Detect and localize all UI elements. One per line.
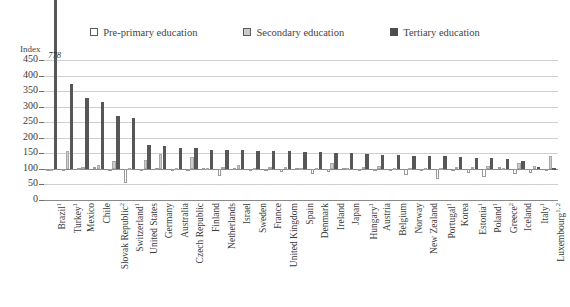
x-axis-label: Greece2 xyxy=(507,203,519,233)
bar xyxy=(521,161,524,169)
bar xyxy=(206,168,209,170)
bar xyxy=(404,169,407,175)
x-axis-label: Iceland xyxy=(523,203,533,231)
bar xyxy=(412,156,415,169)
bar xyxy=(311,169,314,174)
bar xyxy=(377,166,380,168)
bar xyxy=(46,169,49,171)
bar-group xyxy=(342,60,353,200)
bar xyxy=(237,165,240,169)
y-axis-tick-mark-0 xyxy=(39,200,44,201)
x-axis-label: Chile xyxy=(102,203,112,224)
x-axis-label: Netherlands xyxy=(227,203,237,249)
bar-group xyxy=(233,60,244,200)
x-axis-label: Finland xyxy=(211,203,221,232)
bar xyxy=(506,159,509,169)
bar xyxy=(288,151,291,168)
x-axis-label: Luxembourg1, 2 xyxy=(554,203,566,262)
bar-group xyxy=(93,60,104,200)
bar xyxy=(389,169,392,171)
x-axis-label: Mexico xyxy=(86,203,96,232)
x-axis-label: United Kingdom xyxy=(289,203,299,267)
bar xyxy=(50,169,53,171)
bar-series-container: 778 xyxy=(44,60,558,200)
bar xyxy=(264,169,267,171)
bar-group xyxy=(62,60,73,200)
bar-group xyxy=(295,60,306,200)
bar xyxy=(397,155,400,169)
bar-group xyxy=(311,60,322,200)
bar xyxy=(552,168,555,170)
x-axis-label: Poland1 xyxy=(491,203,503,233)
x-axis-label: Spain xyxy=(305,203,315,225)
bar xyxy=(284,167,287,169)
legend-label-pre-primary: Pre-primary education xyxy=(103,27,197,38)
bar xyxy=(77,168,80,170)
bar xyxy=(272,151,275,169)
bar xyxy=(471,167,474,169)
bar xyxy=(253,168,256,170)
x-axis-label: Estonia1 xyxy=(476,203,488,235)
bar xyxy=(132,118,135,169)
bar-group xyxy=(280,60,291,200)
bar-group xyxy=(108,60,119,200)
bar xyxy=(327,169,330,172)
bar-group xyxy=(46,60,57,200)
y-axis-tick-400: 400 xyxy=(0,69,38,80)
bar-group xyxy=(389,60,400,200)
bar xyxy=(451,169,454,171)
bar xyxy=(315,168,318,170)
x-axis-label: Austria xyxy=(382,203,392,231)
y-axis-tick-250: 250 xyxy=(0,115,38,126)
x-axis-label: Ireland xyxy=(336,203,346,230)
bar xyxy=(330,163,333,169)
bar xyxy=(108,169,111,171)
x-axis-label: Germany xyxy=(164,203,174,238)
bar-group xyxy=(404,60,415,200)
y-axis-tick-0: 0 xyxy=(0,193,38,204)
bar xyxy=(459,157,462,169)
x-axis-label: Turkey1 xyxy=(71,203,83,233)
legend-item-pre-primary: Pre-primary education xyxy=(90,27,197,38)
bar xyxy=(268,167,271,169)
bar xyxy=(194,148,197,169)
bar xyxy=(408,168,411,170)
bar-group xyxy=(420,60,431,200)
bar xyxy=(171,169,174,171)
x-axis-label: Switzerland1 xyxy=(133,203,145,252)
bar xyxy=(112,161,115,169)
x-axis-label: New Zealand xyxy=(429,203,439,254)
bar xyxy=(101,102,104,169)
bar xyxy=(443,156,446,168)
bar xyxy=(517,163,520,169)
y-axis-tick-200: 200 xyxy=(0,131,38,142)
legend-label-tertiary: Tertiary education xyxy=(403,27,480,38)
x-axis-label: Belgium xyxy=(398,203,408,236)
bar xyxy=(179,148,182,169)
bar xyxy=(225,150,228,169)
bar xyxy=(350,153,353,169)
bar-group xyxy=(202,60,213,200)
bar-group xyxy=(482,60,493,200)
legend-swatch-pre-primary xyxy=(90,28,98,36)
bar xyxy=(249,169,252,171)
bar xyxy=(436,169,439,179)
bar xyxy=(365,154,368,169)
x-axis-label: Slovak Republic2 xyxy=(118,203,130,269)
bar xyxy=(319,152,322,168)
y-axis-tick-300: 300 xyxy=(0,100,38,111)
bar xyxy=(210,150,213,169)
bar xyxy=(346,168,349,170)
bar xyxy=(221,167,224,169)
x-axis-label: Australia xyxy=(180,203,190,238)
bar xyxy=(439,168,442,170)
bar xyxy=(549,156,552,169)
x-axis-label: Portugal1 xyxy=(445,203,457,238)
bar xyxy=(124,169,127,183)
bar xyxy=(54,0,57,169)
legend-swatch-secondary xyxy=(243,28,251,36)
x-axis-label: Italy1 xyxy=(538,203,550,224)
bar xyxy=(533,166,536,169)
bar xyxy=(424,168,427,170)
bar-group xyxy=(124,60,135,200)
